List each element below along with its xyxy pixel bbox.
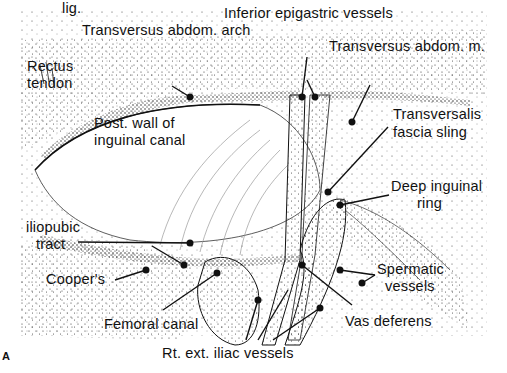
label-iliopubic-line1: iliopubic (26, 219, 80, 235)
label-deep-inguinal-line2: ring (417, 195, 442, 211)
label-rectus-tendon-line2: tendon (27, 75, 73, 91)
label-femoral-canal: Femoral canal (104, 316, 198, 332)
label-iliopubic-line2: tract (36, 236, 65, 252)
label-transversalis-line1: Transversalis (393, 106, 481, 122)
inguinal-anatomy-figure: Inferior epigastric vessels Transversus … (0, 0, 507, 373)
panel-letter: A (2, 350, 10, 362)
label-coopers-line1: Cooper's (46, 271, 105, 287)
label-transversus-abdom-arch: Transversus abdom. arch (82, 22, 250, 38)
label-vas-deferens: Vas deferens (345, 313, 432, 329)
label-transversalis-line2: fascia sling (393, 124, 467, 140)
label-post-wall-line2: inguinal canal (94, 132, 185, 148)
label-spermatic-line1: Spermatic (377, 261, 444, 277)
label-rectus-tendon-line1: Rectus (27, 58, 73, 74)
label-inferior-epigastric-vessels: Inferior epigastric vessels (224, 5, 393, 21)
label-deep-inguinal-line1: Deep inguinal (391, 178, 482, 194)
label-spermatic-line2: vessels (385, 278, 435, 294)
label-post-wall-line1: Post. wall of (94, 115, 175, 131)
label-rt-ext-iliac-vessels: Rt. ext. iliac vessels (162, 345, 294, 361)
label-transversus-abdom-m: Transversus abdom. m. (329, 38, 485, 54)
